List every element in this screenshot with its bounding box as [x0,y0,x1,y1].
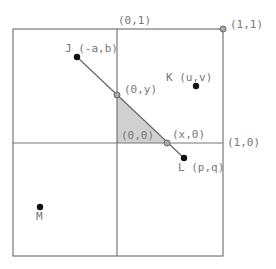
label-top-axis: (0,1) [118,14,151,27]
label-right-axis: (1,0) [227,136,260,149]
point-0-y [114,92,120,98]
point-1-1 [220,26,226,32]
point-x-0 [164,140,170,146]
label-point-l: L (p,q) [178,161,224,174]
label-point-x-0: (x,0) [172,128,205,141]
label-point-j: J (-a,b) [65,42,118,55]
label-origin: (0,0) [121,129,154,142]
label-corner-1-1: (1,1) [230,18,263,31]
label-point-m: M [36,210,43,223]
label-point-k: K (u,v) [166,71,212,84]
unit-square-diagram: (0,1) (1,1) (1,0) (0,0) (0,y) (x,0) J (-… [0,0,276,269]
label-point-0-y: (0,y) [124,83,157,96]
